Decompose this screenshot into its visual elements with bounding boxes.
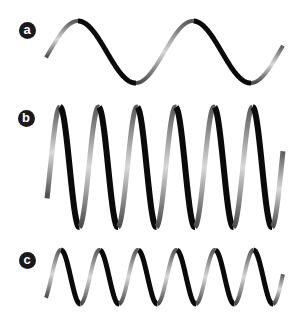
panel-label-b: b — [18, 110, 35, 127]
panel-label-a: a — [19, 22, 36, 39]
wave-b-high-frequency-high-amplitude-ribbon — [47, 107, 283, 227]
waves-figure — [0, 0, 307, 322]
panel-label-c: c — [19, 252, 36, 269]
wave-c-high-frequency-low-amplitude-ribbon — [46, 250, 283, 304]
wave-a-low-frequency-ribbon — [46, 21, 283, 83]
